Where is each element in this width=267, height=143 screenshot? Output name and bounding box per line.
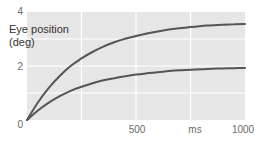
y-axis-label-line1: Eye position <box>9 23 69 35</box>
y-tick-0: 0 <box>17 119 23 130</box>
y-axis-label-line2: (deg) <box>9 36 35 48</box>
y-tick-2: 2 <box>17 61 23 72</box>
x-tick-1000: 1000 <box>232 124 255 135</box>
x-axis-label: ms <box>188 124 201 135</box>
x-tick-500: 500 <box>129 124 146 135</box>
eye-position-chart: Eye position (deg) 4 2 0 500 ms 1000 <box>0 0 267 143</box>
y-tick-4: 4 <box>17 6 23 17</box>
